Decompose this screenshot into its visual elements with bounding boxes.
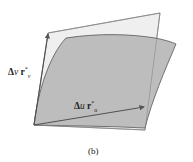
figure-caption: (b) [88, 146, 99, 156]
v-variable: v [14, 67, 18, 77]
v-vector-label: Δv r*v [8, 66, 30, 79]
u-vector-label: Δu r*u [74, 100, 97, 113]
v-subscript: v [28, 73, 31, 79]
diagram-canvas [0, 0, 193, 162]
u-variable: u [80, 101, 85, 111]
star-superscript: * [25, 66, 28, 72]
u-subscript: u [94, 107, 97, 113]
star-superscript: * [91, 100, 94, 106]
